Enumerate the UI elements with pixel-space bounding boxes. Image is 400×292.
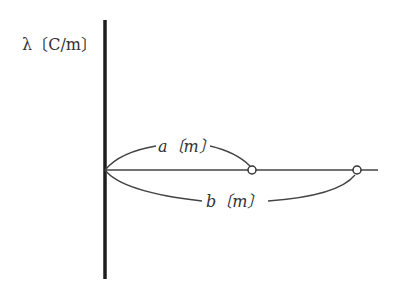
point-a-marker: [248, 166, 256, 174]
dimension-arc-a-right: [210, 146, 250, 166]
point-b-marker: [353, 166, 361, 174]
distance-b-label: b〔m〕: [206, 192, 263, 211]
dimension-arc-b-right: [268, 175, 355, 201]
dimension-arc-a: [105, 146, 156, 170]
dimension-arc-b: [105, 170, 202, 201]
line-charge-diagram: λ〔C/m〕 a〔m〕 b〔m〕: [0, 0, 400, 292]
distance-a-label: a〔m〕: [158, 137, 215, 156]
charge-density-label: λ〔C/m〕: [22, 35, 97, 54]
